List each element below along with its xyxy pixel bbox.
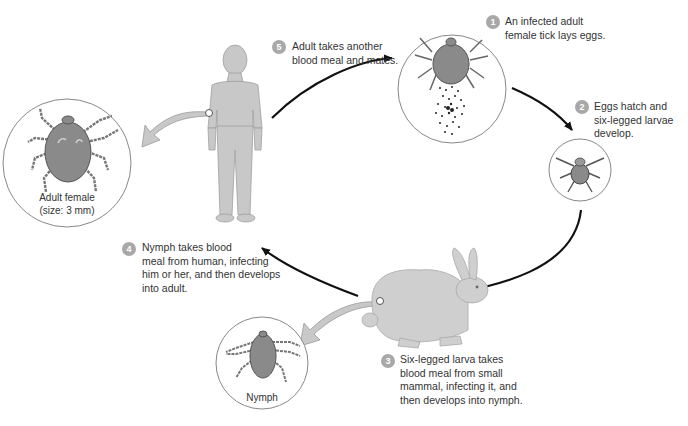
- step-1-label: An infected adult female tick lays eggs.: [505, 15, 605, 42]
- step-2-badge: 2: [575, 100, 589, 114]
- step-4-line-1: Nymph takes blood: [142, 241, 280, 255]
- step-5-line-2: blood meal and mates.: [292, 54, 398, 68]
- adult-female-caption-line-2: (size: 3 mm): [27, 204, 107, 217]
- step-5-label: Adult takes another blood meal and mates…: [292, 40, 398, 67]
- human-figure: [208, 45, 262, 222]
- inset-larva: [549, 139, 611, 201]
- step-2-line-1: Eggs hatch and: [594, 100, 673, 114]
- step-3-line-2: blood meal from small: [400, 367, 523, 381]
- arrow-5-to-1: [272, 58, 392, 118]
- adult-female-caption: Adult female (size: 3 mm): [27, 191, 107, 217]
- rabbit-eye: [476, 286, 479, 289]
- step-4-line-2: meal from human, infecting: [142, 255, 280, 269]
- step-4-line-4: into adult.: [142, 282, 280, 296]
- step-4-badge: 4: [122, 242, 136, 256]
- step-5-line-1: Adult takes another: [292, 40, 398, 54]
- bite-site-rabbit: [377, 298, 384, 305]
- arrow-human-to-adult-inset: [142, 112, 207, 147]
- bite-site-human: [206, 110, 213, 117]
- step-4-label: Nymph takes blood meal from human, infec…: [142, 241, 280, 295]
- step-2-line-2: six-legged larvae: [594, 114, 673, 128]
- step-1-line-1: An infected adult: [505, 15, 605, 29]
- step-3-label: Six-legged larva takes blood meal from s…: [400, 353, 523, 407]
- step-2-label: Eggs hatch and six-legged larvae develop…: [594, 100, 673, 141]
- nymph-caption-line-1: Nymph: [232, 391, 292, 404]
- step-5-badge: 5: [272, 40, 286, 54]
- step-3-line-1: Six-legged larva takes: [400, 353, 523, 367]
- step-1-badge: 1: [486, 15, 500, 29]
- step-3-line-4: then develops into nymph.: [400, 394, 523, 408]
- adult-female-caption-line-1: Adult female: [27, 191, 107, 204]
- arrow-1-to-2: [512, 88, 572, 130]
- nymph-caption: Nymph: [232, 391, 292, 404]
- step-2-line-3: develop.: [594, 127, 673, 141]
- step-4-line-3: him or her, and then develops: [142, 268, 280, 282]
- step-3-badge: 3: [381, 354, 395, 368]
- tick-life-cycle-diagram: 1 An infected adult female tick lays egg…: [0, 0, 688, 426]
- step-1-line-2: female tick lays eggs.: [505, 29, 605, 43]
- inset-egg-laying: [398, 35, 506, 143]
- step-3-line-3: mammal, infecting it, and: [400, 380, 523, 394]
